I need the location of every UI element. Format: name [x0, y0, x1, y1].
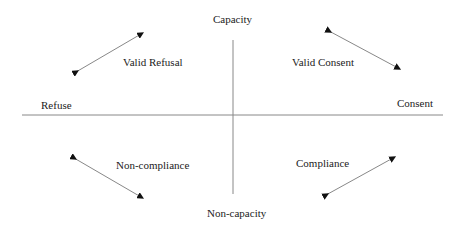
axis-label-refuse: Refuse: [41, 100, 72, 111]
quadrant-label-valid-refusal: Valid Refusal: [123, 57, 183, 68]
axis-label-capacity: Capacity: [213, 14, 252, 25]
quadrant-label-compliance: Compliance: [296, 158, 349, 169]
axis-label-non-capacity: Non-capacity: [207, 208, 266, 219]
axis-label-consent: Consent: [397, 98, 433, 109]
quadrant-label-valid-consent: Valid Consent: [292, 57, 354, 68]
quadrant-diagram: [0, 0, 463, 233]
quadrant-label-non-compliance: Non-compliance: [116, 160, 189, 171]
